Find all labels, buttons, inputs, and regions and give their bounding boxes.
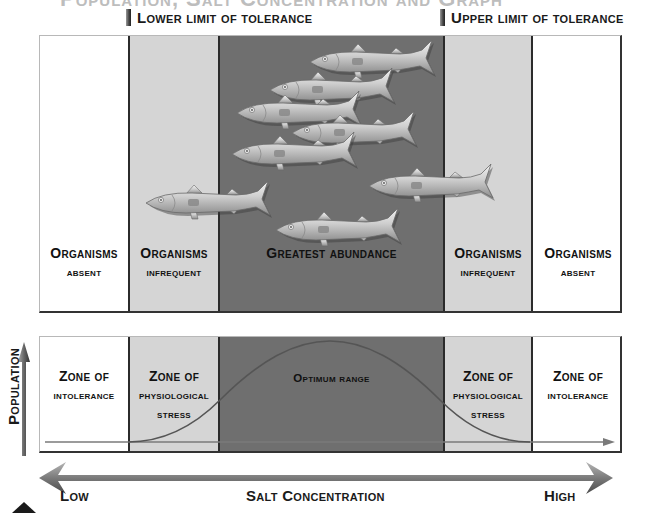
baseline-arrowhead-icon	[603, 438, 615, 446]
x-axis-low-label: Low	[60, 487, 89, 504]
x-axis-high-label: High	[544, 487, 576, 504]
x-axis-label: Salt Concentration	[246, 487, 385, 504]
y-axis-label: Population	[5, 332, 22, 442]
tolerance-curve	[128, 341, 530, 442]
corner-triangle-icon	[12, 502, 36, 513]
graph-overlay	[0, 0, 651, 513]
